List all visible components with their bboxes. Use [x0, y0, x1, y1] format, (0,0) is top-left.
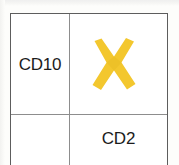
matrix-cell-row2-col1[interactable] — [11, 116, 69, 165]
matrix-table: CD10 CD2 — [10, 13, 168, 165]
figure-canvas: CD10 CD2 — [0, 0, 179, 165]
scan-artifact-top — [0, 0, 179, 6]
scan-artifact-left — [0, 0, 5, 165]
cell-label-cd10: CD10 — [19, 56, 62, 73]
matrix-cell-row1-col2[interactable] — [70, 14, 167, 114]
matrix-cell-row1-col1[interactable]: CD10 — [11, 14, 69, 114]
cell-label-cd2: CD2 — [102, 130, 135, 147]
matrix-cell-row2-col2[interactable]: CD2 — [70, 116, 167, 165]
